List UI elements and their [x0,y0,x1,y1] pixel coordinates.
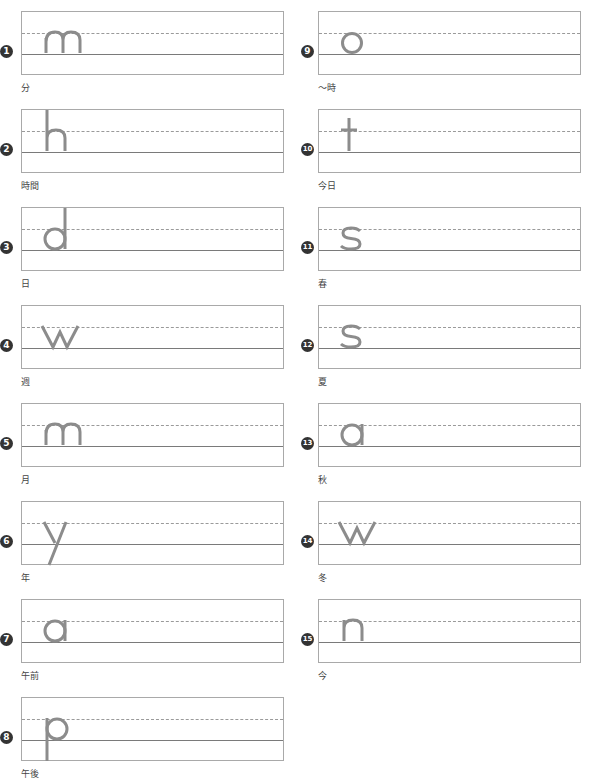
number-badge: 10 [301,143,314,156]
item-11: 11 春 [297,207,592,303]
letter-m-tracing [40,402,100,472]
writing-box[interactable] [318,109,581,173]
number-badge: 12 [301,339,314,352]
writing-box[interactable] [21,109,284,173]
number-badge: 8 [0,731,13,744]
writing-box[interactable] [21,305,284,369]
writing-box[interactable] [21,599,284,663]
letter-o-tracing [337,10,397,80]
word-label: 時間 [21,179,39,192]
writing-box[interactable] [21,403,284,467]
item-8: 8 午後 [0,697,300,784]
item-12: 12 夏 [297,305,592,401]
word-label: 週 [21,375,30,388]
writing-box[interactable] [21,501,284,565]
writing-box[interactable] [21,207,284,271]
number-badge: 14 [301,535,314,548]
item-10: 10 今日 [297,109,592,205]
item-5: 5 月 [0,403,300,499]
item-6: 6 年 [0,501,300,597]
number-badge: 13 [301,437,314,450]
word-label: 午後 [21,767,39,780]
writing-box[interactable] [318,11,581,75]
number-badge: 4 [0,339,13,352]
number-badge: 6 [0,535,13,548]
letter-s-tracing [337,304,397,374]
writing-box[interactable] [318,599,581,663]
word-label: 冬 [318,571,327,584]
writing-box[interactable] [21,697,284,761]
writing-box[interactable] [318,403,581,467]
word-label: 月 [21,473,30,486]
word-label: 年 [21,571,30,584]
word-label: 日 [21,277,30,290]
number-badge: 9 [301,45,314,58]
item-9: 9 〜時 [297,11,592,107]
number-badge: 15 [301,633,314,646]
writing-box[interactable] [318,305,581,369]
word-label: 分 [21,81,30,94]
number-badge: 5 [0,437,13,450]
word-label: 午前 [21,669,39,682]
word-label: 夏 [318,375,327,388]
letter-m-tracing [40,10,100,80]
letter-n-tracing [337,598,397,668]
word-label: 春 [318,277,327,290]
letter-s-tracing [337,206,397,276]
word-label: 秋 [318,473,327,486]
letter-a-tracing [40,598,100,668]
letter-a-tracing [337,402,397,472]
item-3: 3 日 [0,207,300,303]
number-badge: 7 [0,633,13,646]
item-14: 14 冬 [297,501,592,597]
item-7: 7 午前 [0,599,300,695]
number-badge: 2 [0,143,13,156]
number-badge: 3 [0,241,13,254]
writing-box[interactable] [21,11,284,75]
letter-w-tracing [40,304,100,374]
item-2: 2 時間 [0,109,300,205]
letter-t-tracing [337,108,397,178]
item-15: 15 今 [297,599,592,695]
item-13: 13 秋 [297,403,592,499]
letter-p-tracing [40,696,100,766]
word-label: 〜時 [318,81,336,94]
item-1: 1 分 [0,11,300,107]
writing-box[interactable] [318,501,581,565]
letter-w-tracing [337,500,397,570]
number-badge: 1 [0,45,13,58]
word-label: 今 [318,669,327,682]
letter-h-tracing [40,108,100,178]
item-4: 4 週 [0,305,300,401]
letter-y-tracing [40,500,100,570]
letter-d-tracing [40,206,100,276]
word-label: 今日 [318,179,336,192]
writing-box[interactable] [318,207,581,271]
number-badge: 11 [301,241,314,254]
